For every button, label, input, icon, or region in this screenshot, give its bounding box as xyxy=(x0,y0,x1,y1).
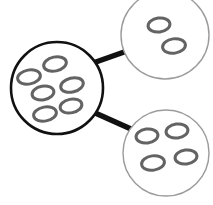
daughter-cell-top[interactable] xyxy=(121,0,209,79)
daughter-cell-bottom[interactable] xyxy=(123,110,209,196)
connector-parent-to-top-daughter xyxy=(93,51,127,63)
daughter-cell-top-membrane xyxy=(121,0,209,79)
connector-parent-to-bottom-daughter xyxy=(93,112,131,129)
cells-layer xyxy=(11,0,209,196)
diagram-canvas xyxy=(0,0,213,205)
cell-division-diagram xyxy=(0,0,213,205)
parent-cell[interactable] xyxy=(11,42,103,134)
